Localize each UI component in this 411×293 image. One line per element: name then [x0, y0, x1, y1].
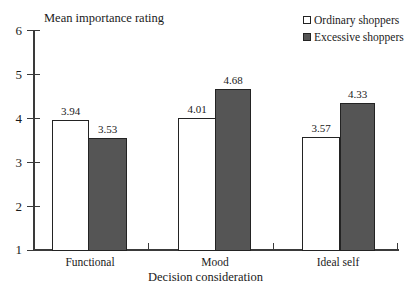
- bar-mood-ordinary: [178, 118, 216, 251]
- bar-value-functional-excessive: 3.53: [88, 124, 127, 135]
- category-label-mood: Mood: [170, 256, 260, 269]
- y-tick-label-1: 1: [6, 243, 22, 256]
- legend-item-excessive: Excessive shoppers: [303, 31, 404, 43]
- y-tick-label-2: 2: [6, 200, 22, 213]
- legend-label-excessive: Excessive shoppers: [314, 31, 404, 43]
- bar-ideal-self-excessive: [340, 103, 375, 251]
- y-axis-title: Mean importance rating: [44, 11, 174, 26]
- legend: Ordinary shoppers Excessive shoppers: [303, 14, 404, 48]
- x-tick-end: [397, 243, 398, 251]
- bar-value-ideal-self-ordinary: 3.57: [302, 123, 340, 134]
- y-tick-5: [27, 74, 40, 75]
- bar-ideal-self-ordinary: [302, 137, 340, 251]
- legend-label-ordinary: Ordinary shoppers: [314, 14, 399, 26]
- x-tick-separator-1: [148, 243, 149, 251]
- legend-item-ordinary: Ordinary shoppers: [303, 14, 404, 26]
- y-tick-label-4: 4: [6, 112, 22, 125]
- bar-functional-ordinary: [52, 120, 89, 251]
- category-label-ideal-self: Ideal self: [293, 256, 383, 269]
- y-tick-1: [27, 250, 40, 251]
- legend-swatch-icon-ordinary: [303, 16, 311, 24]
- bar-functional-excessive: [88, 138, 127, 251]
- y-tick-label-3: 3: [6, 156, 22, 169]
- x-tick-separator-2: [273, 243, 274, 251]
- bar-value-functional-ordinary: 3.94: [52, 106, 89, 117]
- bar-value-mood-excessive: 4.68: [215, 75, 251, 86]
- bar-value-ideal-self-excessive: 4.33: [340, 89, 375, 100]
- bar-value-mood-ordinary: 4.01: [178, 104, 216, 115]
- x-axis-title: Decision consideration: [0, 270, 411, 284]
- category-label-functional: Functional: [45, 256, 135, 269]
- y-tick-2: [27, 206, 40, 207]
- y-tick-label-5: 5: [6, 68, 22, 81]
- bar-chart: Mean importance rating 6 5 4 3 2 1 3.94 …: [0, 0, 411, 293]
- y-tick-4: [27, 118, 40, 119]
- y-tick-3: [27, 162, 40, 163]
- y-tick-label-6: 6: [6, 24, 22, 37]
- y-tick-6: [27, 30, 40, 31]
- bar-mood-excessive: [215, 89, 251, 251]
- y-axis-line: [33, 30, 35, 251]
- legend-swatch-icon-excessive: [303, 33, 311, 41]
